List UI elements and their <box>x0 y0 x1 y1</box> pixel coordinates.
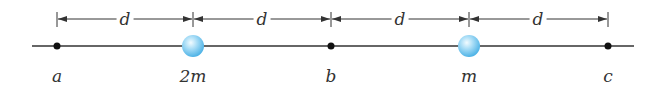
mass-label-2m: 2m <box>180 66 207 85</box>
point-a-dot <box>54 43 61 50</box>
mass-label-m: m <box>461 66 477 85</box>
point-label-b: b <box>326 66 337 85</box>
point-c-dot <box>605 43 612 50</box>
spacing-label-1: d <box>117 11 134 28</box>
diagram-canvas <box>0 0 645 85</box>
mass-2m-sphere <box>182 35 204 57</box>
spacing-label-3: d <box>392 11 409 28</box>
point-label-a: a <box>52 66 62 85</box>
point-b-dot <box>328 43 335 50</box>
spacing-label-4: d <box>530 11 547 28</box>
spacing-label-2: d <box>254 11 271 28</box>
mass-m-sphere <box>458 35 480 57</box>
point-label-c: c <box>603 66 613 85</box>
